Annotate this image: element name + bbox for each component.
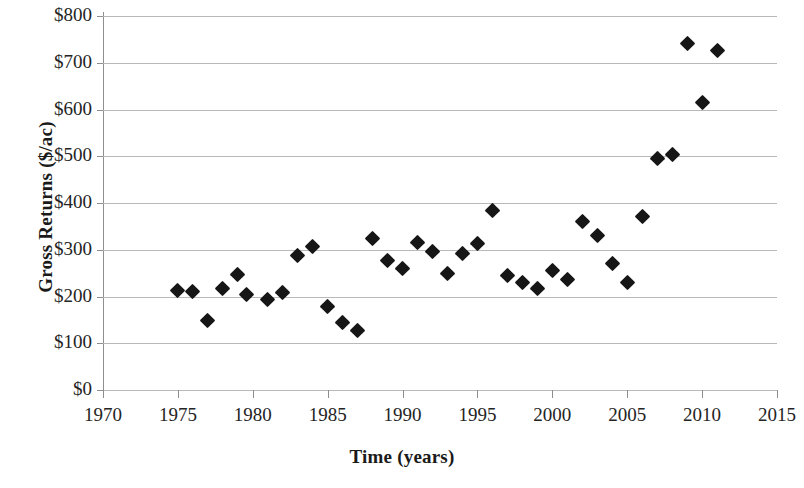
y-tick-label: $300 — [2, 238, 92, 260]
data-point — [649, 151, 665, 167]
x-tick-mark — [328, 390, 329, 398]
data-point — [619, 275, 635, 291]
x-axis-title: Time (years) — [0, 446, 804, 468]
x-tick-label: 2015 — [737, 404, 804, 426]
y-tick-label: $800 — [2, 4, 92, 26]
data-point — [335, 315, 351, 331]
gridline-600 — [103, 110, 777, 111]
data-point — [455, 246, 471, 262]
gridline-400 — [103, 203, 777, 204]
x-tick-mark — [477, 390, 478, 398]
x-tick-mark — [777, 390, 778, 398]
y-tick-label: $500 — [2, 144, 92, 166]
x-tick-mark — [178, 390, 179, 398]
data-point — [425, 244, 441, 260]
data-point — [560, 272, 576, 288]
data-point — [500, 268, 516, 284]
data-point — [260, 292, 276, 308]
gridline-100 — [103, 343, 777, 344]
x-tick-label: 2010 — [662, 404, 742, 426]
x-tick-label: 2005 — [587, 404, 667, 426]
data-point — [545, 263, 561, 279]
x-tick-label: 1995 — [437, 404, 517, 426]
x-tick-label: 1975 — [138, 404, 218, 426]
data-point — [485, 203, 501, 219]
data-point — [440, 265, 456, 281]
gridline-200 — [103, 297, 777, 298]
y-tick-label: $0 — [2, 378, 92, 400]
data-point — [380, 252, 396, 268]
x-tick-label: 2000 — [512, 404, 592, 426]
x-tick-mark — [702, 390, 703, 398]
data-point — [395, 261, 411, 277]
data-point — [230, 266, 246, 282]
data-point — [664, 147, 680, 163]
data-point — [410, 235, 426, 251]
data-point — [709, 42, 725, 58]
data-point — [530, 280, 546, 296]
data-point — [634, 209, 650, 225]
x-tick-mark — [103, 390, 104, 398]
data-point — [239, 286, 255, 302]
y-tick-label: $700 — [2, 51, 92, 73]
plot-area — [103, 16, 777, 390]
data-point — [275, 285, 291, 301]
y-tick-label: $100 — [2, 331, 92, 353]
y-tick-label: $400 — [2, 191, 92, 213]
data-point — [350, 323, 366, 339]
x-tick-label: 1990 — [363, 404, 443, 426]
data-point — [320, 299, 336, 315]
x-tick-mark — [627, 390, 628, 398]
data-point — [200, 313, 216, 329]
y-tick-label: $200 — [2, 285, 92, 307]
x-tick-label: 1980 — [213, 404, 293, 426]
y-tick-label: $600 — [2, 98, 92, 120]
data-point — [365, 230, 381, 246]
data-point — [305, 239, 321, 255]
data-point — [215, 280, 231, 296]
data-point — [694, 95, 710, 111]
data-point — [679, 35, 695, 51]
data-point — [515, 275, 531, 291]
data-point — [604, 256, 620, 272]
x-tick-label: 1985 — [288, 404, 368, 426]
x-tick-mark — [403, 390, 404, 398]
gridline-0 — [103, 390, 777, 391]
x-tick-mark — [253, 390, 254, 398]
gridline-700 — [103, 63, 777, 64]
gridline-800 — [103, 16, 777, 17]
data-point — [575, 214, 591, 230]
scatter-chart: Gross Returns ($/ac) $0$100$200$300$400$… — [0, 0, 804, 488]
x-tick-mark — [552, 390, 553, 398]
data-point — [589, 228, 605, 244]
x-tick-label: 1970 — [63, 404, 143, 426]
